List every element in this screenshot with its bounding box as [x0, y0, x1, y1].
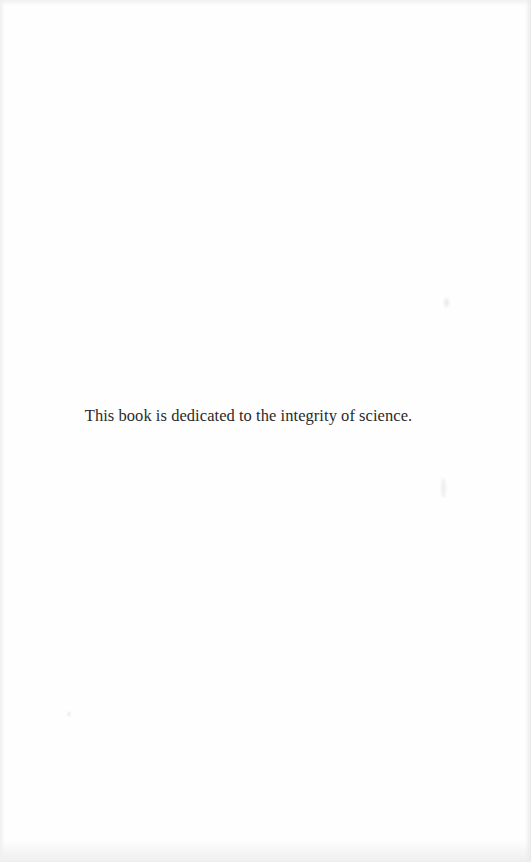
- dedication-text: This book is dedicated to the integrity …: [85, 406, 412, 425]
- paper-speck: [444, 298, 449, 307]
- book-page: This book is dedicated to the integrity …: [0, 0, 531, 862]
- paper-speck: [441, 478, 446, 498]
- paper-speck: [68, 712, 70, 716]
- page-edge-right: [525, 0, 531, 862]
- page-edge-bottom: [0, 840, 531, 862]
- dedication-line: This book is dedicated to the integrity …: [0, 406, 531, 426]
- page-edge-left: [0, 0, 5, 862]
- page-edge-top: [0, 0, 531, 6]
